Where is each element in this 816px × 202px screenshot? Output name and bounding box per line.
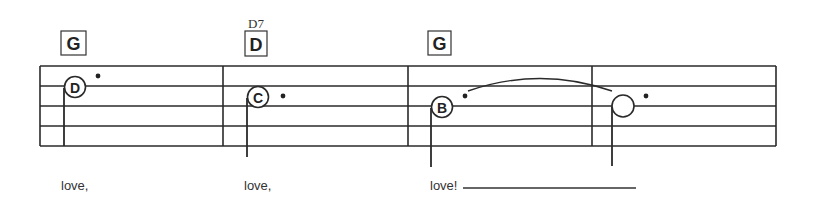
music-score: G D7 D G D C — [0, 0, 816, 202]
dot-icon — [281, 94, 286, 99]
chord-symbol: G — [432, 34, 446, 54]
dot-icon — [463, 94, 468, 99]
dot-icon — [644, 94, 649, 99]
alternate-chord-label: D7 — [248, 16, 264, 31]
note-measure-4 — [612, 94, 648, 166]
note-measure-1: D — [64, 74, 100, 146]
chord-box-measure-3: G — [428, 31, 451, 55]
chord-symbol: G — [66, 34, 80, 54]
tie-curve — [468, 79, 612, 92]
note-letter: C — [253, 90, 263, 106]
lyric-measure-1: love, — [61, 178, 88, 193]
lyric-measure-2: love, — [244, 178, 271, 193]
note-head-empty — [612, 95, 634, 117]
note-letter: B — [437, 100, 447, 116]
note-measure-3: B — [431, 94, 467, 167]
note-letter: D — [70, 80, 80, 96]
lyric-measure-3: love! — [430, 178, 457, 193]
chord-symbol: D — [250, 35, 263, 55]
dot-icon — [96, 74, 101, 79]
chord-box-measure-2: D — [245, 31, 267, 56]
chord-box-measure-1: G — [61, 31, 86, 55]
